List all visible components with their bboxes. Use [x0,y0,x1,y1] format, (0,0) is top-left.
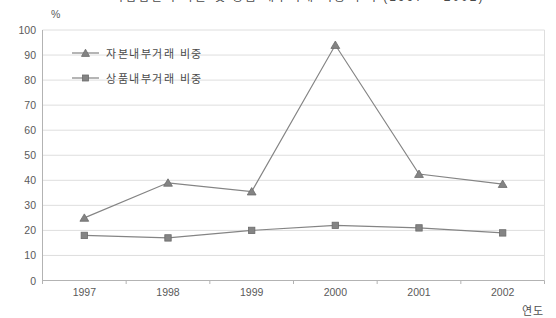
x-axis-label: 2000 [313,286,357,298]
triangle-marker-icon [72,48,99,58]
legend-label-product: 상품내부거래 비중 [106,70,203,86]
x-axis-label: 2001 [397,286,441,298]
marker-square [248,227,254,233]
marker-square [499,230,505,236]
marker-triangle [80,214,89,221]
y-axis-label: 30 [4,199,36,211]
chart-figure: 기업집단의 자본 및 상품 내부거래 비중 추이 (1997 ~ 2002) %… [0,0,556,318]
y-axis-label: 100 [4,24,36,36]
y-axis-label: 50 [4,149,36,161]
y-axis-label: 90 [4,49,36,61]
marker-square [165,235,171,241]
marker-triangle [331,41,340,48]
square-marker-icon [72,73,99,83]
y-axis-label: 0 [4,275,36,287]
x-axis-label: 1999 [230,286,274,298]
x-axis-label: 1998 [146,286,190,298]
x-axis-label: 1997 [62,286,106,298]
y-axis-label: 60 [4,124,36,136]
marker-triangle [415,170,424,177]
y-axis-label: 10 [4,249,36,261]
legend-item-product: 상품내부거래 비중 [72,71,203,84]
y-axis-label: 40 [4,174,36,186]
legend-item-capital: 자본내부거래 비중 [72,46,203,59]
series-line [84,225,502,238]
x-axis-label: 2002 [481,286,525,298]
legend: 자본내부거래 비중 상품내부거래 비중 [72,46,203,96]
y-axis-label: 80 [4,74,36,86]
y-axis-label: 20 [4,224,36,236]
legend-label-capital: 자본내부거래 비중 [106,45,203,61]
marker-square [332,222,338,228]
y-axis-label: 70 [4,99,36,111]
x-axis-title: 연도 [498,302,544,318]
marker-square [81,232,87,238]
marker-square [416,225,422,231]
